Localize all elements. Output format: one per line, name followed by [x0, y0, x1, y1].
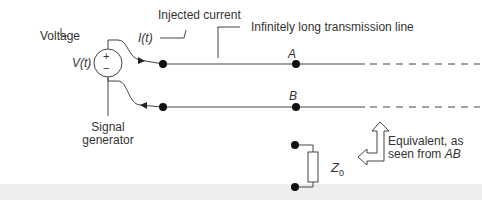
- line-label-leader: [218, 27, 240, 58]
- transmission-line-label: Infinitely long transmission line: [251, 21, 414, 34]
- signal-generator-line2: generator: [78, 134, 138, 147]
- equivalent-line2-prefix: seen from: [388, 147, 445, 161]
- node-a-dot: [292, 60, 300, 68]
- impedance-subscript: 0: [339, 168, 344, 178]
- impedance-label: Z0: [331, 161, 344, 180]
- node-b-label: B: [289, 90, 297, 103]
- signal-generator-label: Signal generator: [78, 121, 138, 147]
- node-b-dot: [292, 103, 300, 111]
- injected-current-label: Injected current: [158, 9, 241, 22]
- minus-sign: −: [103, 62, 109, 75]
- equivalent-line2-ab: AB: [445, 147, 461, 161]
- node-a-label: A: [288, 48, 296, 61]
- impedance-symbol: Z: [331, 160, 339, 175]
- terminal-dot-top-left: [159, 60, 167, 68]
- current-leader-line: [160, 30, 186, 38]
- voltage-symbol: V(t): [72, 57, 91, 70]
- equivalent-arrow-icon: [358, 122, 389, 165]
- terminal-dot-bottom-left: [159, 103, 167, 111]
- equiv-terminal-top-dot: [291, 141, 299, 149]
- current-arrow-bottom-icon: [140, 102, 147, 109]
- current-symbol: I(t): [138, 32, 153, 45]
- current-arrow-top-icon: [138, 57, 145, 64]
- equivalent-line2: seen from AB: [388, 148, 463, 161]
- equivalent-label: Equivalent, as seen from AB: [388, 135, 463, 161]
- impedance-resistor: [308, 152, 318, 182]
- voltage-label: Voltage: [40, 30, 80, 43]
- source-wire-bottom: [108, 77, 163, 107]
- equiv-terminal-bottom-dot: [291, 183, 299, 191]
- transmission-line-diagram: Voltage V(t) + − Injected current I(t) I…: [0, 0, 482, 204]
